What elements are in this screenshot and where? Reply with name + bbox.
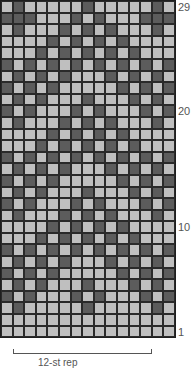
stitch-cell bbox=[140, 129, 152, 141]
stitch-cell bbox=[152, 291, 164, 303]
stitch-cell bbox=[71, 163, 83, 175]
stitch-cell bbox=[140, 210, 152, 222]
stitch-cell bbox=[163, 302, 175, 314]
stitch-cell bbox=[13, 221, 25, 233]
stitch-cell bbox=[71, 47, 83, 59]
stitch-cell bbox=[82, 233, 94, 245]
stitch-cell bbox=[59, 152, 71, 164]
stitch-cell bbox=[82, 291, 94, 303]
stitch-cell bbox=[94, 175, 106, 187]
stitch-cell bbox=[59, 221, 71, 233]
stitch-cell bbox=[117, 1, 129, 13]
stitch-cell bbox=[59, 47, 71, 59]
stitch-cell bbox=[71, 175, 83, 187]
stitch-cell bbox=[24, 13, 36, 25]
stitch-cell bbox=[47, 268, 59, 280]
stitch-cell bbox=[24, 36, 36, 48]
stitch-cell bbox=[140, 326, 152, 338]
stitch-cell bbox=[1, 129, 13, 141]
stitch-cell bbox=[94, 47, 106, 59]
stitch-cell bbox=[152, 13, 164, 25]
stitch-cell bbox=[82, 59, 94, 71]
stitch-cell bbox=[152, 175, 164, 187]
stitch-cell bbox=[47, 256, 59, 268]
stitch-cell bbox=[105, 268, 117, 280]
stitch-cell bbox=[59, 105, 71, 117]
stitch-cell bbox=[163, 59, 175, 71]
stitch-cell bbox=[163, 1, 175, 13]
stitch-cell bbox=[47, 314, 59, 326]
stitch-cell bbox=[24, 117, 36, 129]
stitch-cell bbox=[163, 198, 175, 210]
stitch-cell bbox=[117, 94, 129, 106]
stitch-cell bbox=[36, 71, 48, 83]
stitch-cell bbox=[105, 140, 117, 152]
stitch-cell bbox=[117, 163, 129, 175]
stitch-cell bbox=[117, 268, 129, 280]
stitch-cell bbox=[117, 326, 129, 338]
stitch-cell bbox=[140, 82, 152, 94]
stitch-cell bbox=[1, 279, 13, 291]
stitch-cell bbox=[140, 233, 152, 245]
stitch-cell bbox=[47, 152, 59, 164]
stitch-cell bbox=[163, 233, 175, 245]
stitch-cell bbox=[140, 163, 152, 175]
stitch-cell bbox=[129, 221, 141, 233]
stitch-cell bbox=[117, 244, 129, 256]
stitch-cell bbox=[36, 1, 48, 13]
stitch-cell bbox=[24, 244, 36, 256]
stitch-cell bbox=[140, 198, 152, 210]
stitch-cell bbox=[1, 221, 13, 233]
stitch-cell bbox=[105, 71, 117, 83]
stitch-cell bbox=[152, 140, 164, 152]
stitch-cell bbox=[163, 82, 175, 94]
stitch-cell bbox=[1, 152, 13, 164]
stitch-cell bbox=[129, 163, 141, 175]
stitch-cell bbox=[13, 140, 25, 152]
stitch-cell bbox=[47, 82, 59, 94]
stitch-cell bbox=[140, 268, 152, 280]
stitch-cell bbox=[82, 198, 94, 210]
stitch-cell bbox=[152, 47, 164, 59]
stitch-cell bbox=[36, 221, 48, 233]
stitch-cell bbox=[13, 24, 25, 36]
stitch-cell bbox=[13, 59, 25, 71]
stitch-cell bbox=[94, 36, 106, 48]
stitch-cell bbox=[129, 314, 141, 326]
stitch-cell bbox=[152, 256, 164, 268]
stitch-cell bbox=[36, 175, 48, 187]
stitch-cell bbox=[105, 221, 117, 233]
stitch-cell bbox=[13, 105, 25, 117]
stitch-cell bbox=[71, 129, 83, 141]
stitch-cell bbox=[105, 36, 117, 48]
stitch-cell bbox=[129, 291, 141, 303]
stitch-cell bbox=[105, 1, 117, 13]
stitch-cell bbox=[59, 71, 71, 83]
stitch-cell bbox=[82, 129, 94, 141]
stitch-cell bbox=[129, 210, 141, 222]
stitch-cell bbox=[105, 233, 117, 245]
stitch-cell bbox=[105, 129, 117, 141]
stitch-cell bbox=[152, 152, 164, 164]
stitch-cell bbox=[71, 244, 83, 256]
stitch-cell bbox=[152, 36, 164, 48]
stitch-cell bbox=[59, 82, 71, 94]
stitch-cell bbox=[152, 302, 164, 314]
stitch-cell bbox=[82, 187, 94, 199]
stitch-cell bbox=[163, 187, 175, 199]
stitch-cell bbox=[59, 268, 71, 280]
stitch-cell bbox=[140, 221, 152, 233]
stitch-cell bbox=[47, 94, 59, 106]
stitch-cell bbox=[140, 302, 152, 314]
stitch-cell bbox=[1, 198, 13, 210]
stitch-cell bbox=[94, 233, 106, 245]
stitch-cell bbox=[13, 198, 25, 210]
stitch-cell bbox=[140, 105, 152, 117]
stitch-cell bbox=[47, 13, 59, 25]
stitch-cell bbox=[117, 71, 129, 83]
stitch-cell bbox=[152, 279, 164, 291]
stitch-cell bbox=[129, 175, 141, 187]
row-number-label: 20 bbox=[178, 105, 190, 117]
stitch-cell bbox=[71, 71, 83, 83]
stitch-cell bbox=[105, 94, 117, 106]
